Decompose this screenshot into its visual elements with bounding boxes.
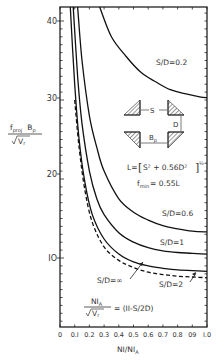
svg-text:fprojBp: fprojBp bbox=[10, 123, 36, 134]
formula-ni: NIA Vr = (II-S/2D) bbox=[84, 297, 154, 318]
formula-fmin: fmin= 0.55L bbox=[137, 179, 180, 189]
curve-sd0.2 bbox=[100, 7, 207, 98]
svg-text:½: ½ bbox=[199, 160, 204, 166]
svg-text:0.8: 0.8 bbox=[172, 331, 182, 339]
label-sd-inf: S/D=∞ bbox=[97, 276, 123, 285]
svg-text:0.2: 0.2 bbox=[84, 331, 94, 339]
x-tick-labels: 00.I0.20.30.40.50.60.70.809I.0 bbox=[58, 331, 211, 339]
svg-text:0.3: 0.3 bbox=[99, 331, 109, 339]
svg-text:0.7: 0.7 bbox=[158, 331, 168, 339]
svg-text:09: 09 bbox=[188, 331, 196, 339]
label-sd-0.6: S/D=0.6 bbox=[162, 209, 194, 218]
y-axis-label: fprojBp Vr bbox=[8, 123, 42, 146]
svg-text:Bp: Bp bbox=[149, 134, 157, 144]
label-sd-1: S/D=1 bbox=[160, 238, 184, 247]
svg-text:0.I: 0.I bbox=[71, 331, 79, 339]
svg-text:S: S bbox=[150, 107, 155, 115]
svg-text:0.6: 0.6 bbox=[143, 331, 153, 339]
x-axis-label: NI/NIA bbox=[117, 345, 139, 355]
svg-text:= (II-S/2D): = (II-S/2D) bbox=[114, 304, 154, 313]
inset-diagram: S D Bp bbox=[124, 100, 184, 148]
svg-text:NIA: NIA bbox=[91, 297, 103, 307]
svg-text:fmin= 0.55L: fmin= 0.55L bbox=[137, 179, 180, 189]
svg-text:L=: L= bbox=[127, 163, 137, 172]
svg-text:Vr: Vr bbox=[92, 309, 100, 318]
svg-text:0.4: 0.4 bbox=[114, 331, 124, 339]
svg-text:D: D bbox=[173, 121, 178, 129]
svg-text:30: 30 bbox=[47, 94, 57, 103]
label-sd-2: S/D=2 bbox=[159, 280, 183, 289]
svg-text:Vr: Vr bbox=[18, 137, 26, 146]
curve-sd∞ bbox=[75, 100, 207, 278]
svg-text:20: 20 bbox=[47, 170, 57, 179]
label-sd-0.2: S/D=0.2 bbox=[156, 58, 188, 67]
svg-text:I.0: I.0 bbox=[203, 331, 211, 339]
svg-text:[: [ bbox=[138, 161, 142, 174]
formula-l: L= [ S² + 0.56D² ] ½ bbox=[127, 160, 204, 174]
svg-text:40: 40 bbox=[47, 17, 57, 26]
y-tick-labels: 403020IO bbox=[47, 17, 60, 263]
svg-text:0: 0 bbox=[58, 331, 62, 339]
chart: 403020IO 00.I0.20.30.40.50.60.70.809I.0 … bbox=[0, 0, 220, 363]
svg-text:0.5: 0.5 bbox=[128, 331, 138, 339]
svg-text:IO: IO bbox=[48, 254, 57, 263]
svg-text:S² + 0.56D²: S² + 0.56D² bbox=[143, 163, 187, 172]
